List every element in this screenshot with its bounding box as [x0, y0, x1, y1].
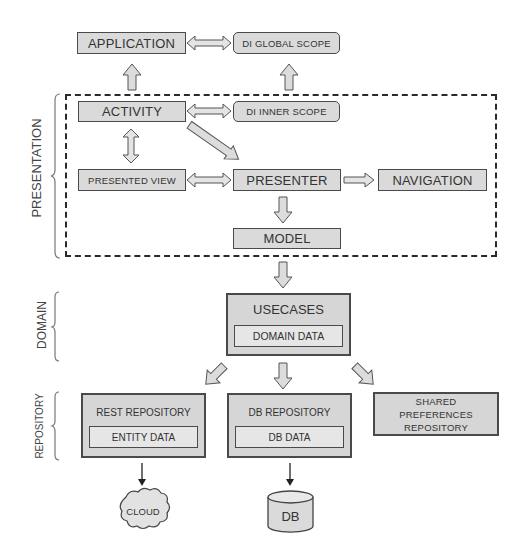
- usecases-node: USECASES DOMAIN DATA: [226, 293, 351, 356]
- shared-preferences-line-1: SHARED: [416, 395, 457, 408]
- application-node: APPLICATION: [77, 32, 186, 54]
- entity-data-node: ENTITY DATA: [89, 426, 198, 448]
- activity-node: ACTIVITY: [78, 101, 186, 122]
- db-repository-node: DB REPOSITORY DB DATA: [227, 393, 352, 458]
- model-node: MODEL: [233, 228, 341, 249]
- shared-preferences-repository-node: SHARED PREFERENCES REPOSITORY: [373, 392, 499, 436]
- arrow-usecases-to-rest-repository: [199, 359, 230, 390]
- usecases-title: USECASES: [228, 302, 349, 317]
- arrow-usecases-to-shared-prefs: [348, 359, 379, 390]
- presentation-brace-icon: [51, 94, 60, 258]
- presenter-node: PRESENTER: [233, 169, 341, 191]
- navigation-node: NAVIGATION: [378, 169, 487, 191]
- presented-view-node: PRESENTED VIEW: [78, 169, 186, 191]
- arrow-rest-to-cloud: [138, 463, 146, 486]
- rest-repository-title: REST REPOSITORY: [83, 407, 204, 418]
- diagram-arrows: [0, 0, 525, 559]
- arrow-application-di-global: [187, 36, 231, 50]
- di-inner-scope-node: DI INNER SCOPE: [233, 101, 340, 122]
- domain-data-node: DOMAIN DATA: [234, 325, 343, 347]
- domain-brace-icon: [52, 292, 59, 361]
- db-label: DB: [268, 504, 313, 528]
- db-data-node: DB DATA: [235, 426, 344, 448]
- cloud-label: CLOUD: [120, 500, 166, 522]
- arrow-inner-to-global-scope: [280, 64, 298, 90]
- layer-label-repository: REPOSITORY: [34, 390, 46, 462]
- arrow-db-repo-to-db: [286, 463, 294, 486]
- rest-repository-node: REST REPOSITORY ENTITY DATA: [81, 393, 206, 458]
- shared-preferences-line-3: REPOSITORY: [404, 421, 468, 434]
- layer-label-presentation: PRESENTATION: [29, 108, 45, 228]
- arrow-usecases-to-db-repository: [274, 363, 292, 389]
- arrow-presentation-to-usecases: [274, 262, 292, 288]
- db-repository-title: DB REPOSITORY: [229, 407, 350, 418]
- layer-label-domain: DOMAIN: [35, 295, 49, 355]
- arrow-activity-to-application: [123, 64, 141, 90]
- shared-preferences-line-2: PREFERENCES: [399, 408, 472, 421]
- architecture-diagram: PRESENTATION DOMAIN REPOSITORY APPLICATI…: [0, 0, 525, 559]
- di-global-scope-node: DI GLOBAL SCOPE: [233, 32, 340, 54]
- repository-brace-icon: [52, 392, 59, 460]
